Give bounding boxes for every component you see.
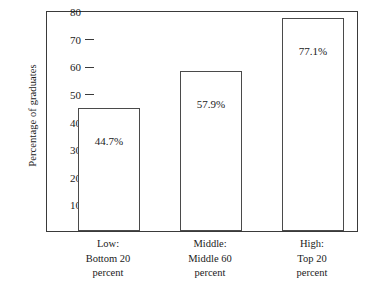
x-category-label-3: High:Top 20percent (257, 237, 366, 281)
y-tick-label: 80 (47, 4, 81, 20)
category-label-line: percent (257, 266, 366, 281)
bar-1: 44.7% (78, 108, 140, 231)
category-label-line: High: (257, 237, 366, 252)
category-label-line: percent (155, 266, 265, 281)
y-tick-label: 60 (47, 59, 81, 75)
category-label-line: Low: (53, 237, 163, 252)
bar-3: 77.1% (282, 18, 344, 231)
y-tick-mark (85, 67, 94, 68)
bar-2: 57.9% (180, 71, 242, 231)
category-label-line: percent (53, 266, 163, 281)
x-category-label-2: Middle:Middle 60percent (155, 237, 265, 281)
bar-value-label: 57.9% (181, 98, 241, 110)
y-tick-label: 30 (47, 142, 81, 158)
y-tick-label: 70 (47, 32, 81, 48)
bar-chart: Percentage of graduates 8070605040302010… (0, 0, 366, 295)
bar-value-label: 77.1% (283, 45, 343, 57)
y-tick-label: 10 (47, 197, 81, 213)
bar-value-label: 44.7% (79, 135, 139, 147)
category-label-line: Middle 60 (155, 252, 265, 267)
y-tick-label: 20 (47, 170, 81, 186)
category-label-line: Top 20 (257, 252, 366, 267)
y-tick-mark (85, 94, 94, 95)
y-tick-mark (85, 39, 94, 40)
y-tick-label: 50 (47, 87, 81, 103)
y-tick-label: 40 (47, 115, 81, 131)
plot-area: 8070605040302010 44.7%57.9%77.1% (46, 11, 358, 232)
y-axis-title: Percentage of graduates (27, 26, 38, 206)
category-label-line: Bottom 20 (53, 252, 163, 267)
category-label-line: Middle: (155, 237, 265, 252)
x-category-label-1: Low:Bottom 20percent (53, 237, 163, 281)
